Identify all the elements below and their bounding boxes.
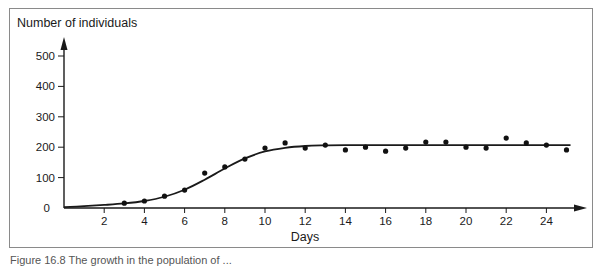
- y-tick-label: 200: [36, 141, 55, 153]
- data-point: [142, 198, 147, 203]
- x-tick-label: 18: [419, 215, 432, 227]
- y-tick-label: 500: [36, 50, 55, 62]
- y-axis-label: Number of individuals: [17, 16, 137, 30]
- data-point: [443, 139, 448, 144]
- data-point: [323, 142, 328, 147]
- data-point: [122, 201, 127, 206]
- x-tick-label: 10: [259, 215, 272, 227]
- data-point: [303, 146, 308, 151]
- data-point: [544, 142, 549, 147]
- data-point: [383, 149, 388, 154]
- x-tick-label: 4: [141, 215, 148, 227]
- x-tick-label: 8: [222, 215, 228, 227]
- y-axis-arrow-icon: [61, 37, 68, 50]
- y-tick-label: 300: [36, 111, 55, 123]
- x-tick-label: 22: [500, 215, 513, 227]
- data-point: [463, 145, 468, 150]
- y-tick-label: 100: [36, 172, 55, 184]
- x-axis-label: Days: [291, 230, 319, 244]
- figure-caption: Figure 16.8 The growth in the population…: [10, 254, 232, 266]
- data-point: [283, 140, 288, 145]
- data-point: [222, 164, 227, 169]
- x-axis-arrow-icon: [574, 205, 587, 212]
- fit-curve: [64, 145, 571, 207]
- x-tick-label: 2: [101, 215, 107, 227]
- x-tick-label: 16: [379, 215, 392, 227]
- axes: 010020030040050024681012141618202224: [36, 37, 587, 227]
- x-tick-label: 12: [299, 215, 312, 227]
- y-tick-label: 0: [44, 202, 50, 214]
- x-tick-label: 6: [181, 215, 187, 227]
- x-tick-label: 24: [540, 215, 553, 227]
- x-tick-label: 14: [339, 215, 352, 227]
- data-point: [363, 145, 368, 150]
- data-point: [202, 170, 207, 175]
- data-point: [242, 156, 247, 161]
- x-tick-label: 20: [460, 215, 473, 227]
- data-point: [423, 139, 428, 144]
- data-point: [564, 147, 569, 152]
- data-point: [182, 187, 187, 192]
- data-point: [343, 147, 348, 152]
- logistic-fit-line: [64, 145, 571, 207]
- y-tick-label: 400: [36, 80, 55, 92]
- data-point: [504, 135, 509, 140]
- data-point: [484, 146, 489, 151]
- data-point: [403, 146, 408, 151]
- data-points: [122, 135, 569, 205]
- data-point: [162, 194, 167, 199]
- data-point: [524, 140, 529, 145]
- data-point: [262, 146, 267, 151]
